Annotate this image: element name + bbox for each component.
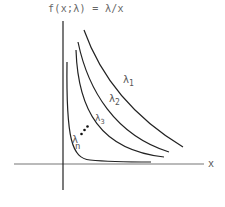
hyperbola-family-diagram: λ1 λ2 λ3 λn x — [0, 0, 225, 207]
x-axis-label: x — [208, 158, 214, 169]
curve-lambda-3 — [76, 50, 164, 157]
curve-lambda-1 — [84, 30, 183, 147]
label-lambda-3: λ3 — [95, 113, 105, 126]
label-lambda-1: λ1 — [123, 74, 134, 88]
ellipsis-dots — [80, 125, 89, 135]
label-lambda-n: λn — [72, 134, 80, 151]
label-lambda-2: λ2 — [109, 93, 120, 107]
